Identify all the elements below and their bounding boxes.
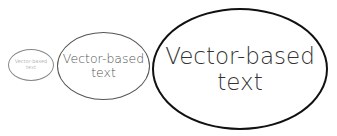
ellipse-label-small: Vector-based text [15, 59, 48, 71]
medium-ellipse: Vector-based text [57, 32, 150, 100]
small-ellipse: Vector-based text [8, 49, 54, 81]
ellipse-label-medium: Vector-based text [63, 52, 144, 81]
ellipse-label-large: Vector-based text [165, 43, 315, 96]
large-ellipse: Vector-based text [152, 8, 328, 130]
